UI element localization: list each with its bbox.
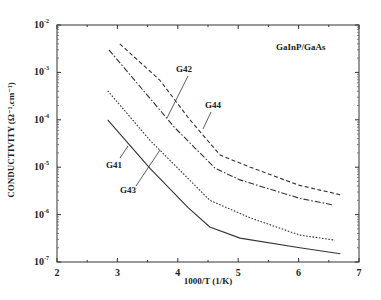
x-axis-title: 1000/T (1/K) — [184, 276, 233, 286]
x-tick-label: 6 — [296, 267, 301, 278]
y-tick-label: 10-4 — [34, 113, 49, 125]
sample-annotation: GaInP/GaAs — [276, 42, 326, 52]
plot-frame — [57, 25, 359, 262]
x-tick-label: 5 — [236, 267, 241, 278]
svg-text:G43: G43 — [120, 185, 137, 195]
y-tick-label: 10-6 — [34, 208, 49, 220]
y-tick-label: 10-5 — [34, 160, 49, 172]
label-g41: G41 — [106, 146, 128, 170]
y-tick-label: 10-2 — [34, 18, 49, 30]
x-axis-ticks: 234567 — [55, 25, 362, 278]
x-tick-label: 2 — [55, 267, 60, 278]
svg-text:G44: G44 — [205, 100, 222, 110]
label-g42: G42 — [167, 64, 193, 118]
series-line-g43 — [108, 91, 335, 240]
y-axis-title: CONDUCTIVITY (Ω⁻¹.cm⁻¹) — [6, 82, 16, 197]
y-tick-label: 10-3 — [34, 65, 49, 77]
svg-text:G42: G42 — [176, 64, 193, 74]
y-tick-label: 10-7 — [34, 255, 49, 267]
series-line-g44 — [120, 44, 341, 195]
x-tick-label: 3 — [115, 267, 120, 278]
label-g44: G44 — [203, 100, 222, 129]
series-line-g42 — [109, 50, 333, 205]
svg-text:G41: G41 — [106, 160, 123, 170]
y-axis-ticks: 10-210-310-410-510-610-7 — [34, 18, 359, 267]
x-tick-label: 7 — [357, 267, 362, 278]
series-lines — [108, 44, 341, 254]
x-tick-label: 4 — [175, 267, 180, 278]
conductivity-chart: 234567 10-210-310-410-510-610-7 GaInP/Ga… — [0, 0, 381, 300]
